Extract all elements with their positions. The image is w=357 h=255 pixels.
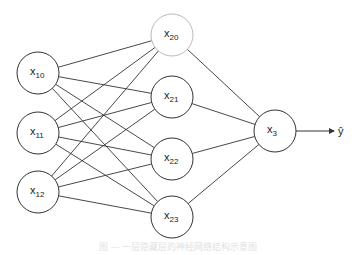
node-x22: x22 — [151, 138, 193, 180]
node-x23: x23 — [151, 196, 193, 238]
edge-x10-x20 — [58, 41, 152, 68]
edge-x11-x20 — [55, 47, 155, 120]
edge-x11-x21 — [58, 102, 151, 127]
node-x11: x11 — [17, 112, 59, 154]
edge-x23-x3 — [188, 144, 259, 203]
node-x21: x21 — [151, 76, 193, 118]
edge-x20-x3 — [187, 49, 259, 116]
edge-x12-x21 — [55, 109, 155, 180]
connection-edges — [52, 41, 260, 213]
node-x20: x20 — [151, 14, 193, 56]
edge-x10-x21 — [59, 77, 152, 94]
edge-x12-x20 — [52, 51, 159, 176]
figure-caption: 图 — 一层隐藏层的神经网络结构示意图 — [99, 241, 258, 252]
edge-x11-x22 — [59, 137, 152, 155]
edge-x12-x23 — [59, 196, 152, 213]
node-x12: x12 — [17, 171, 59, 213]
node-x3: x3 — [254, 110, 296, 152]
neuron-nodes: x10x11x12x20x21x22x23x3 — [17, 14, 296, 238]
neural-network-diagram: x10x11x12x20x21x22x23x3 ŷ 图 — 一层隐藏层的神经网络… — [0, 0, 357, 255]
edge-x21-x3 — [192, 104, 255, 125]
output-label-y-hat: ŷ — [338, 125, 344, 137]
edge-x10-x22 — [56, 84, 155, 147]
network-svg: x10x11x12x20x21x22x23x3 ŷ 图 — 一层隐藏层的神经网络… — [0, 0, 357, 255]
node-x10: x10 — [17, 52, 59, 94]
edge-x22-x3 — [192, 137, 254, 154]
